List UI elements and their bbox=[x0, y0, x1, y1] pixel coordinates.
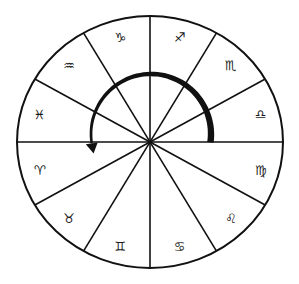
sign-leo-icon: ♌︎ bbox=[225, 211, 237, 226]
zodiac-wheel: ♎︎♏︎♐︎♑︎♒︎♓︎♈︎♉︎♊︎♋︎♌︎♍︎ bbox=[0, 0, 299, 284]
sign-aries-icon: ♈︎ bbox=[34, 163, 46, 178]
sign-libra-icon: ♎︎ bbox=[255, 107, 267, 122]
sign-aquarius-icon: ♒︎ bbox=[63, 58, 75, 73]
sign-taurus-icon: ♉︎ bbox=[63, 211, 75, 226]
sign-virgo-icon: ♍︎ bbox=[255, 163, 267, 178]
sign-capricorn-icon: ♑︎ bbox=[115, 30, 127, 45]
sign-cancer-icon: ♋︎ bbox=[174, 239, 186, 254]
arrow-shaft bbox=[90, 72, 215, 144]
sector-dividers bbox=[17, 16, 283, 268]
sign-gemini-icon: ♊︎ bbox=[115, 239, 127, 254]
sign-scorpio-icon: ♏︎ bbox=[225, 58, 237, 73]
arrowhead bbox=[86, 142, 98, 153]
sign-pisces-icon: ♓︎ bbox=[34, 107, 46, 122]
sign-sagittarius-icon: ♐︎ bbox=[174, 30, 186, 45]
